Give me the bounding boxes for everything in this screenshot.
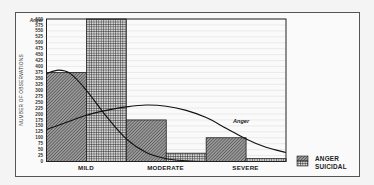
- y-tick-label: 575: [35, 23, 43, 28]
- y-tick-label: 475: [35, 46, 43, 51]
- bar-anger-moderate: [126, 120, 166, 162]
- x-category-mild: MILD: [78, 164, 94, 171]
- bars: [47, 19, 287, 162]
- chart-svg: 0255075100125150175200225250275300325350…: [0, 0, 374, 185]
- legend-anger-label: ANGER: [315, 155, 339, 162]
- y-axis-top-label: Anger: [29, 18, 43, 23]
- y-tick-label: 275: [35, 94, 43, 99]
- y-axis-title: NUMBER OF OBSERVATIONS: [19, 54, 24, 126]
- y-tick-label: 25: [38, 153, 44, 158]
- x-category-moderate: MODERATE: [147, 164, 184, 171]
- y-tick-label: 300: [35, 88, 43, 93]
- y-tick-label: 200: [35, 112, 43, 117]
- y-tick-label: 50: [38, 147, 44, 152]
- y-axis-ticks: 0255075100125150175200225250275300325350…: [35, 17, 43, 165]
- y-tick-label: 375: [35, 70, 43, 75]
- y-tick-label: 225: [35, 106, 43, 111]
- y-tick-label: 400: [35, 64, 43, 69]
- y-tick-label: 100: [35, 135, 43, 140]
- bar-anger-severe: [206, 138, 246, 162]
- y-tick-label: 425: [35, 58, 43, 63]
- y-tick-label: 325: [35, 82, 43, 87]
- y-tick-label: 150: [35, 123, 43, 128]
- y-tick-label: 450: [35, 52, 43, 57]
- y-tick-label: 350: [35, 76, 43, 81]
- y-tick-label: 125: [35, 129, 43, 134]
- legend: ANGER SUICIDAL: [297, 155, 347, 170]
- y-tick-label: 250: [35, 100, 43, 105]
- y-tick-label: 175: [35, 118, 43, 123]
- y-tick-label: 550: [35, 28, 43, 33]
- bar-suicidal-mild: [86, 19, 126, 162]
- y-tick-label: 0: [40, 159, 43, 164]
- anger-curve-label: Anger: [232, 118, 250, 124]
- y-tick-label: 500: [35, 40, 43, 45]
- legend-suicidal-label: SUICIDAL: [315, 163, 347, 170]
- legend-suicidal-swatch: [297, 161, 308, 166]
- y-tick-label: 525: [35, 34, 43, 39]
- legend-anger-swatch: [297, 156, 308, 161]
- y-tick-label: 75: [38, 141, 44, 146]
- x-category-severe: SEVERE: [232, 164, 258, 171]
